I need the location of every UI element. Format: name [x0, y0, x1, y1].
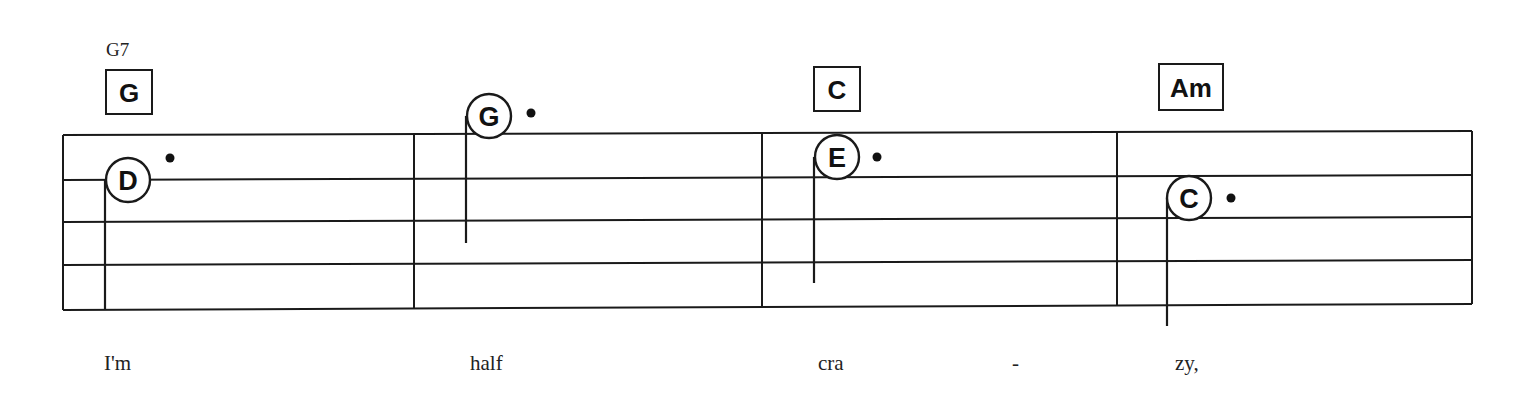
- chord-symbol: Am: [1159, 64, 1223, 110]
- lyric-syllable: zy,: [1175, 351, 1199, 375]
- note-letter: D: [118, 166, 138, 196]
- dotted-note-dot: [1227, 194, 1236, 203]
- note-letter: G: [478, 102, 499, 132]
- dotted-note-dot: [166, 154, 175, 163]
- staff-line: [63, 260, 1472, 265]
- dotted-note-dot: [873, 153, 882, 162]
- alt-chord-label: G7: [106, 39, 129, 60]
- staff-line: [63, 131, 1472, 135]
- lyric-syllable: half: [470, 351, 503, 375]
- staff-line: [63, 304, 1472, 310]
- note: E: [815, 135, 882, 179]
- chord-symbol: G: [106, 70, 152, 114]
- notes: DGEC: [106, 94, 1236, 220]
- staff-line: [63, 175, 1472, 180]
- chord-label: Am: [1170, 73, 1212, 103]
- chord-label: G: [119, 78, 139, 108]
- chord-symbols: G7 GCAm: [106, 39, 1223, 114]
- staff-line: [63, 217, 1472, 222]
- chord-label: C: [828, 75, 847, 105]
- lyrics: I'mhalfcra-zy,: [104, 351, 1199, 375]
- lyric-syllable: -: [1012, 351, 1019, 375]
- note: G: [467, 94, 536, 138]
- music-score: DGEC G7 GCAm I'mhalfcra-zy,: [0, 0, 1525, 395]
- note-letter: C: [1179, 184, 1199, 214]
- chord-symbol: C: [814, 67, 860, 111]
- staff: [63, 131, 1472, 310]
- note: C: [1167, 176, 1236, 220]
- dotted-note-dot: [527, 109, 536, 118]
- note-letter: E: [828, 143, 846, 173]
- lyric-syllable: I'm: [104, 351, 131, 375]
- note: D: [106, 154, 175, 203]
- lyric-syllable: cra: [818, 351, 844, 375]
